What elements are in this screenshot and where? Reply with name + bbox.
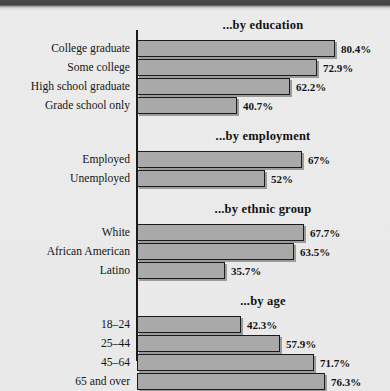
chart-bar-row: 45–6471.7% — [0, 354, 390, 371]
bar-category-label: Latino — [0, 262, 130, 279]
bar-category-label: Unemployed — [0, 170, 130, 187]
chart-bar-row: High school graduate62.2% — [0, 78, 390, 95]
bar — [137, 78, 290, 95]
bar-container — [137, 59, 317, 76]
bar-category-label: 25–44 — [0, 335, 130, 352]
bar-container — [137, 151, 302, 168]
section-title: ...by ethnic group — [136, 202, 390, 217]
chart-bar-row: Some college72.9% — [0, 59, 390, 76]
bar — [137, 354, 314, 371]
chart-bar-row: College graduate80.4% — [0, 40, 390, 57]
bar-container — [137, 243, 294, 260]
bar-category-label: 65 and over — [0, 373, 130, 390]
bar — [137, 97, 237, 114]
bar-container — [137, 78, 290, 95]
bar-category-label: African American — [0, 243, 130, 260]
bar-value-label: 63.5% — [300, 243, 330, 261]
chart-bar-row: 18–2442.3% — [0, 316, 390, 333]
bar-category-label: Grade school only — [0, 97, 130, 114]
bar-container — [137, 40, 335, 57]
bar-container — [137, 316, 241, 333]
bar-value-label: 42.3% — [247, 316, 277, 334]
bar — [137, 40, 335, 57]
bar-category-label: White — [0, 224, 130, 241]
chart-bar-row: Employed67% — [0, 151, 390, 168]
bar-category-label: High school graduate — [0, 78, 130, 95]
chart-bar-row: Grade school only40.7% — [0, 97, 390, 114]
bar-category-label: Some college — [0, 59, 130, 76]
chart-bar-row: Unemployed52% — [0, 170, 390, 187]
chart-bar-row: African American63.5% — [0, 243, 390, 260]
bar — [137, 335, 280, 352]
bar-category-label: 18–24 — [0, 316, 130, 333]
bar-container — [137, 97, 237, 114]
bar-value-label: 40.7% — [243, 97, 273, 115]
chart-bar-row: 65 and over76.3% — [0, 373, 390, 390]
chart-bar-row: 25–4457.9% — [0, 335, 390, 352]
bar-container — [137, 224, 304, 241]
section-title: ...by employment — [136, 129, 390, 144]
bar-value-label: 57.9% — [286, 335, 316, 353]
bar — [137, 243, 294, 260]
bar-value-label: 35.7% — [231, 262, 261, 280]
bar-container — [137, 373, 325, 390]
chart-bar-row: White67.7% — [0, 224, 390, 241]
bar — [137, 316, 241, 333]
section-title: ...by education — [136, 18, 390, 33]
bar-category-label: 45–64 — [0, 354, 130, 371]
bar-value-label: 72.9% — [323, 59, 353, 77]
bar-category-label: College graduate — [0, 40, 130, 57]
bar-value-label: 67% — [308, 151, 330, 169]
bar-container — [137, 354, 314, 371]
bar-value-label: 76.3% — [331, 373, 361, 391]
bar — [137, 170, 265, 187]
bar-container — [137, 170, 265, 187]
bar-value-label: 62.2% — [296, 78, 326, 96]
bar-value-label: 80.4% — [341, 40, 371, 58]
bar — [137, 151, 302, 168]
bar — [137, 59, 317, 76]
bar-value-label: 67.7% — [310, 224, 340, 242]
chart-bar-row: Latino35.7% — [0, 262, 390, 279]
bar — [137, 373, 325, 390]
bar-container — [137, 262, 225, 279]
bar — [137, 224, 304, 241]
bar — [137, 262, 225, 279]
bar-category-label: Employed — [0, 151, 130, 168]
bar-value-label: 71.7% — [320, 354, 350, 372]
bar-value-label: 52% — [271, 170, 293, 188]
section-title: ...by age — [136, 294, 390, 309]
bar-container — [137, 335, 280, 352]
